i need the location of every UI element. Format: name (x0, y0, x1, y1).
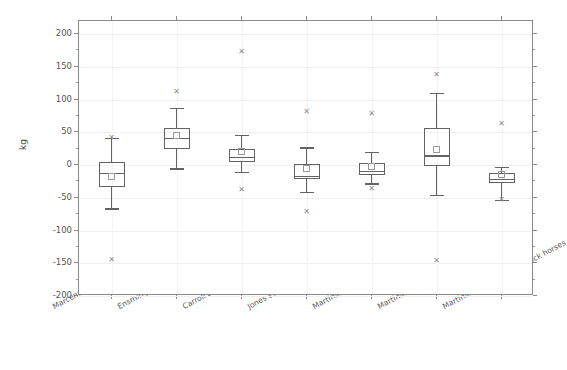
median-line (229, 157, 255, 158)
mean-marker (303, 165, 310, 172)
y-axis-tick-mark-right (533, 197, 537, 198)
whisker-cap-lower (235, 172, 249, 173)
mean-marker (498, 171, 505, 178)
whisker-upper (176, 108, 177, 128)
y-axis-minor-tick-right (533, 213, 535, 214)
whisker-upper (306, 147, 307, 163)
whisker-lower (371, 175, 372, 184)
y-axis-tick-label: 0 (67, 159, 72, 169)
y-axis-title: kg (18, 139, 28, 150)
outlier-marker: ✕ (173, 88, 180, 96)
whisker-cap-upper (495, 167, 509, 168)
outlier-marker: ✕ (498, 196, 505, 204)
whisker-cap-upper (430, 93, 444, 94)
median-line (294, 176, 320, 177)
y-axis-tick-mark-right (533, 33, 537, 34)
y-axis-tick-mark-right (533, 230, 537, 231)
y-axis-tick-label: 50 (61, 126, 72, 136)
y-axis-tick-label: -150 (53, 257, 72, 267)
y-axis-tick-label: -100 (53, 225, 72, 235)
whisker-upper (241, 135, 242, 149)
outlier-marker: ✕ (303, 208, 310, 216)
y-axis-tick-label: -50 (58, 192, 72, 202)
plot-area: ✕✕✕✕✕✕✕✕✕✕✕✕✕ (78, 20, 533, 295)
outlier-marker: ✕ (433, 71, 440, 79)
y-axis-minor-tick-right (533, 246, 535, 247)
boxplot-series: ✕✕✕✕✕✕✕✕✕✕✕✕✕ (79, 21, 532, 294)
whisker-lower (111, 187, 112, 209)
outlier-marker: ✕ (108, 134, 115, 142)
y-axis-tick-mark-right (533, 164, 537, 165)
mean-marker (173, 132, 180, 139)
median-line (424, 155, 450, 156)
median-line (359, 171, 385, 172)
y-axis-tick-mark-right (533, 66, 537, 67)
whisker-cap-upper (170, 108, 184, 109)
y-axis-minor-tick-right (533, 279, 535, 280)
whisker-cap-upper (365, 152, 379, 153)
outlier-marker: ✕ (303, 108, 310, 116)
y-axis-tick-mark-right (533, 295, 537, 296)
whisker-cap-lower (430, 195, 444, 196)
y-axis-minor-tick-right (533, 82, 535, 83)
whisker-cap-lower (170, 168, 184, 169)
outlier-marker: ✕ (368, 110, 375, 118)
mean-marker (368, 163, 375, 170)
whisker-cap-lower (105, 208, 119, 209)
y-axis-minor-tick-right (533, 49, 535, 50)
y-axis-tick-label: 100 (56, 94, 72, 104)
y-axis-minor-tick-right (533, 115, 535, 116)
mean-marker (433, 146, 440, 153)
whisker-upper (371, 152, 372, 163)
whisker-lower (241, 162, 242, 171)
whisker-lower (176, 149, 177, 169)
y-axis-minor-tick-right (533, 180, 535, 181)
outlier-marker: ✕ (368, 185, 375, 193)
y-axis-tick-mark-right (533, 99, 537, 100)
whisker-cap-upper (300, 147, 314, 148)
y-axis-tick-label: 200 (56, 28, 72, 38)
outlier-marker: ✕ (498, 120, 505, 128)
mean-marker (238, 148, 245, 155)
mean-marker (108, 173, 115, 180)
y-axis-minor-tick-right (533, 148, 535, 149)
horizontal-gridline (79, 296, 532, 297)
whisker-cap-lower (300, 192, 314, 193)
y-axis-tick-labels: 200150100500-50-100-150-200 (44, 20, 72, 295)
outlier-marker: ✕ (433, 257, 440, 265)
whisker-lower (306, 179, 307, 191)
whisker-cap-upper (235, 135, 249, 136)
outlier-marker: ✕ (238, 186, 245, 194)
whisker-upper (436, 93, 437, 128)
y-axis-tick-label: 150 (56, 61, 72, 71)
y-axis-tick-mark-right (533, 131, 537, 132)
outlier-marker: ✕ (108, 256, 115, 264)
outlier-marker: ✕ (238, 48, 245, 56)
whisker-lower (436, 166, 437, 195)
median-line (489, 179, 515, 180)
